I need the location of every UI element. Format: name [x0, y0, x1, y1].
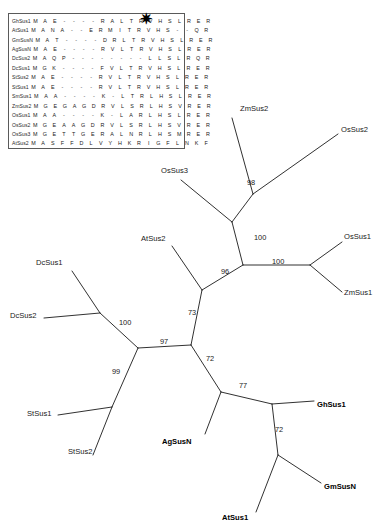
- alignment-residue: -: [107, 55, 117, 61]
- taxon-label-zmsus2: ZmSus2: [240, 104, 268, 113]
- alignment-residue: R: [185, 103, 195, 109]
- alignment-residue: G: [40, 65, 50, 71]
- alignment-residue: R: [182, 84, 192, 90]
- alignment-residue: M: [30, 55, 40, 61]
- alignment-residue: -: [77, 27, 87, 33]
- alignment-residue: E: [88, 131, 98, 137]
- alignment-residue: H: [155, 18, 165, 24]
- alignment-residue: S: [167, 37, 177, 43]
- alignment-residue: -: [69, 18, 79, 24]
- edge-node73: [191, 290, 202, 345]
- bootstrap-value: 97: [160, 337, 168, 346]
- alignment-residue: R: [203, 122, 213, 128]
- taxon-label-stsus1: StSus1: [27, 409, 51, 418]
- alignment-residue: A: [126, 112, 136, 118]
- alignment-residue: -: [78, 55, 88, 61]
- alignment-residue: F: [163, 140, 173, 146]
- alignment-residue: D: [100, 37, 110, 43]
- alignment-residue: T: [126, 65, 136, 71]
- alignment-residue: L: [174, 112, 184, 118]
- alignment-residue: L: [116, 65, 126, 71]
- alignment-residue: H: [158, 37, 168, 43]
- alignment-residue: -: [80, 93, 90, 99]
- alignment-residue: A: [51, 93, 61, 99]
- alignment-sequence: MGK----FVLTRVHSLRER: [30, 65, 212, 71]
- alignment-residue: H: [153, 84, 163, 90]
- edge-node72b: [272, 404, 278, 455]
- alignment-residue: -: [69, 112, 79, 118]
- alignment-residue: G: [41, 103, 51, 109]
- alignment-residue: E: [196, 37, 206, 43]
- alignment-residue: R: [206, 37, 216, 43]
- alignment-residue: S: [164, 55, 174, 61]
- alignment-residue: R: [98, 122, 108, 128]
- bootstrap-value: 72: [206, 354, 214, 363]
- alignment-residue: G: [78, 131, 88, 137]
- alignment-residue: -: [60, 18, 70, 24]
- alignment-residue: -: [69, 46, 79, 52]
- edge-stsus2: [93, 407, 112, 455]
- alignment-residue: R: [204, 93, 214, 99]
- alignment-residue: L: [146, 103, 156, 109]
- alignment-residue: T: [52, 37, 62, 43]
- alignment-residue: R: [96, 74, 106, 80]
- alignment-residue: L: [174, 55, 184, 61]
- alignment-residue: M: [29, 140, 39, 146]
- alignment-residue: T: [127, 18, 137, 24]
- alignment-residue: -: [79, 46, 89, 52]
- alignment-residue: T: [128, 93, 138, 99]
- alignment-residue: M: [30, 65, 40, 71]
- alignment-sequence-name: AtSus1: [12, 27, 29, 33]
- alignment-sequence-name: ZmSus2: [12, 103, 31, 109]
- alignment-row: SmSus1MAA----K-LTRLHSLRER: [12, 92, 182, 101]
- alignment-row-list: GhSus1MAE----RALTRVHSLRERAtSus1MANA--ERM…: [12, 16, 182, 147]
- alignment-residue: A: [69, 122, 79, 128]
- alignment-residue: R: [184, 65, 194, 71]
- alignment-residue: N: [182, 140, 192, 146]
- alignment-residue: E: [195, 93, 205, 99]
- alignment-residue: R: [184, 112, 194, 118]
- alignment-residue: F: [58, 140, 68, 146]
- alignment-residue: -: [97, 55, 107, 61]
- alignment-residue: L: [118, 103, 128, 109]
- alignment-residue: E: [50, 46, 60, 52]
- bootstrap-value: 98: [247, 178, 255, 187]
- alignment-row: ZmSus2MGEGAGDRVLSRLHSVRER: [12, 101, 182, 110]
- alignment-residue: R: [137, 103, 147, 109]
- alignment-residue: R: [137, 46, 147, 52]
- alignment-sequence-name: DcSus1: [12, 65, 30, 71]
- alignment-residue: D: [88, 122, 98, 128]
- taxon-label-atsus2: AtSus2: [141, 234, 165, 243]
- alignment-residue: L: [145, 55, 155, 61]
- alignment-residue: S: [165, 122, 175, 128]
- alignment-residue: A: [38, 84, 48, 90]
- alignment-sequence: MAA----K-LTRLHSLRER: [32, 93, 214, 99]
- alignment-residue: V: [144, 84, 154, 90]
- alignment-residue: -: [67, 27, 77, 33]
- alignment-residue: M: [33, 37, 43, 43]
- alignment-residue: R: [203, 55, 213, 61]
- alignment-residue: L: [147, 93, 157, 99]
- alignment-residue: A: [41, 93, 51, 99]
- alignment-residue: -: [60, 93, 70, 99]
- taxon-label-ghsus1: GhSus1: [317, 400, 346, 409]
- alignment-residue: V: [145, 65, 155, 71]
- alignment-residue: H: [155, 131, 165, 137]
- alignment-residue: A: [38, 27, 48, 33]
- alignment-residue: R: [98, 103, 108, 109]
- alignment-residue: A: [107, 131, 117, 137]
- alignment-residue: A: [58, 27, 68, 33]
- alignment-residue: -: [62, 37, 72, 43]
- alignment-residue: Q: [193, 55, 203, 61]
- alignment-residue: V: [146, 46, 156, 52]
- alignment-residue: L: [117, 18, 127, 24]
- alignment-residue: S: [163, 74, 173, 80]
- alignment-residue: L: [155, 55, 165, 61]
- alignment-residue: R: [185, 46, 195, 52]
- alignment-residue: R: [98, 131, 108, 137]
- alignment-residue: R: [98, 18, 108, 24]
- alignment-residue: L: [86, 140, 96, 146]
- alignment-residue: V: [108, 46, 118, 52]
- alignment-residue: F: [201, 140, 211, 146]
- alignment-residue: G: [40, 131, 50, 137]
